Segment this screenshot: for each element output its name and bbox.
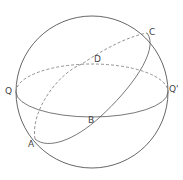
tilted-circle-front-arc <box>35 33 150 143</box>
label-d: D <box>94 55 101 64</box>
label-c: C <box>149 28 155 37</box>
label-a: A <box>28 140 34 149</box>
label-q-prime: Q' <box>169 85 179 94</box>
equator-back-arc <box>16 64 168 92</box>
sphere-diagram-graphic <box>0 0 183 180</box>
sphere-outline <box>16 16 168 168</box>
sphere-diagram: Q Q' C D B A <box>0 0 183 180</box>
equator-front-arc <box>16 92 168 117</box>
label-q: Q <box>5 87 12 96</box>
label-b: B <box>88 116 94 125</box>
